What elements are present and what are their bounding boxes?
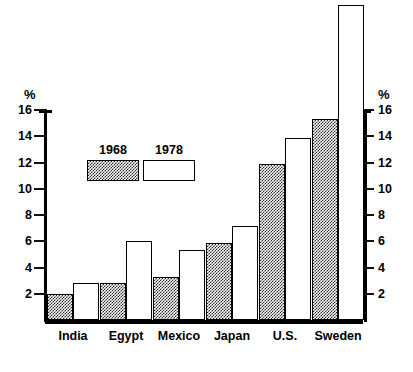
legend-swatch-1978	[143, 160, 195, 181]
right-axis-tick-label-12: 12	[378, 157, 392, 170]
bar-egypt-1968	[100, 283, 126, 320]
category-label-mexico: Mexico	[149, 330, 209, 343]
left-axis-tick-label-6: 6	[25, 235, 32, 248]
category-label-egypt: Egypt	[96, 330, 156, 343]
left-axis-unit-label: %	[24, 88, 36, 101]
left-axis-tick-14	[34, 135, 47, 137]
right-axis-tick-label-16: 16	[378, 104, 392, 117]
bar-sweden-1978	[338, 5, 364, 320]
bar-chart-figure: % % 161614141212101088664422 IndiaEgyptM…	[0, 0, 413, 372]
right-axis-tick-label-14: 14	[378, 130, 392, 143]
left-axis-tick-label-2: 2	[25, 288, 32, 301]
right-axis-spine	[364, 110, 367, 322]
left-axis-tick-10	[34, 188, 47, 190]
left-axis-tick-label-10: 10	[18, 183, 32, 196]
category-label-sweden: Sweden	[308, 330, 368, 343]
bar-japan-1978	[232, 226, 258, 321]
left-axis-tick-label-12: 12	[18, 157, 32, 170]
bar-us-1978	[285, 138, 311, 320]
legend-swatch-1968	[87, 160, 139, 181]
right-axis-tick-label-2: 2	[378, 288, 385, 301]
bar-egypt-1978	[126, 241, 152, 320]
left-axis-tick-label-14: 14	[18, 130, 32, 143]
left-axis-tick-2	[34, 293, 47, 295]
bar-mexico-1968	[153, 277, 179, 320]
bar-us-1968	[259, 164, 285, 320]
left-axis-tick-6	[34, 240, 47, 242]
bar-japan-1968	[206, 243, 232, 320]
bar-mexico-1978	[179, 250, 205, 320]
x-axis-baseline	[45, 320, 363, 324]
left-axis-tick-16	[34, 109, 47, 111]
right-axis-tick-label-6: 6	[378, 235, 385, 248]
right-axis-tick-label-10: 10	[378, 183, 392, 196]
left-axis-tick-label-4: 4	[25, 262, 32, 275]
bar-sweden-1968	[312, 119, 338, 320]
category-label-us: U.S.	[255, 330, 315, 343]
left-axis-tick-12	[34, 162, 47, 164]
left-axis-tick-4	[34, 267, 47, 269]
left-axis-spine	[44, 110, 47, 322]
legend-label-1968: 1968	[87, 144, 139, 157]
bar-india-1968	[47, 294, 73, 320]
legend-label-1978: 1978	[143, 144, 195, 157]
left-axis-tick-label-16: 16	[18, 104, 32, 117]
right-axis-tick-label-8: 8	[378, 209, 385, 222]
category-label-japan: Japan	[202, 330, 262, 343]
right-axis-tick-label-4: 4	[378, 262, 385, 275]
left-axis-tick-8	[34, 214, 47, 216]
bar-india-1978	[73, 283, 99, 320]
right-axis-unit-label: %	[378, 88, 390, 101]
left-axis-tick-label-8: 8	[25, 209, 32, 222]
category-label-india: India	[43, 330, 103, 343]
